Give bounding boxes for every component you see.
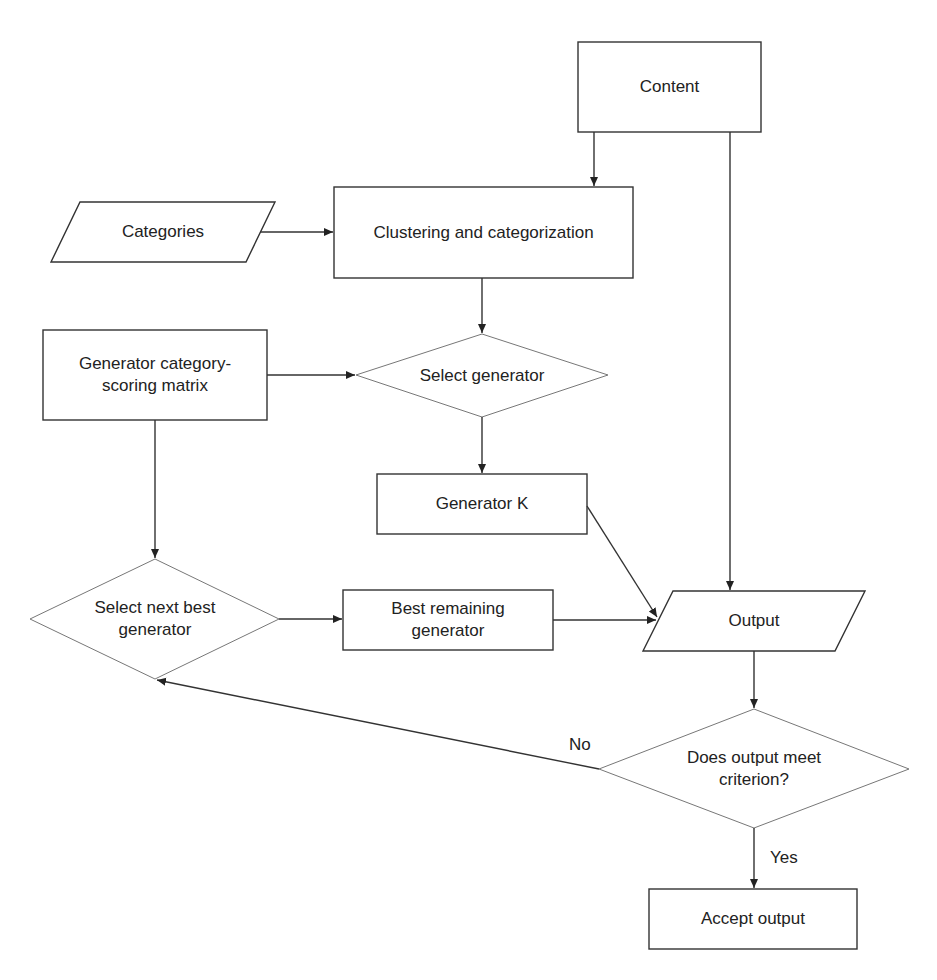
output-label: Output: [658, 591, 850, 651]
clustering-label: Clustering and categorization: [334, 187, 633, 278]
criterion-label: Does output meet criterion?: [599, 709, 909, 828]
edge-label-yes: Yes: [770, 848, 798, 868]
output-text: Output: [728, 610, 779, 632]
best-remaining-label: Best remaining generator: [343, 590, 553, 650]
edge-criterion-nextbest-no: [157, 680, 599, 769]
criterion-text-line1: Does output meet: [687, 747, 821, 769]
matrix-label: Generator category- scoring matrix: [43, 330, 267, 420]
generator-k-text: Generator K: [436, 493, 529, 515]
select-next-best-text-line2: generator: [119, 619, 192, 641]
clustering-text: Clustering and categorization: [373, 222, 593, 244]
matrix-text-line2: scoring matrix: [102, 375, 208, 397]
content-text: Content: [640, 76, 700, 98]
criterion-text-line2: criterion?: [719, 769, 789, 791]
edge-generatork-output: [587, 506, 657, 617]
best-remaining-text-line1: Best remaining: [391, 598, 504, 620]
categories-label: Categories: [60, 202, 266, 262]
select-next-best-label: Select next best generator: [30, 559, 280, 679]
select-next-best-text-line1: Select next best: [95, 597, 216, 619]
accept-text: Accept output: [701, 908, 805, 930]
matrix-text-line1: Generator category-: [79, 353, 231, 375]
select-generator-text: Select generator: [420, 365, 545, 387]
content-label: Content: [578, 42, 761, 132]
edge-label-no: No: [569, 735, 591, 755]
best-remaining-text-line2: generator: [412, 620, 485, 642]
accept-label: Accept output: [649, 889, 857, 949]
select-generator-label: Select generator: [356, 334, 608, 417]
generator-k-label: Generator K: [377, 474, 587, 534]
categories-text: Categories: [122, 221, 204, 243]
